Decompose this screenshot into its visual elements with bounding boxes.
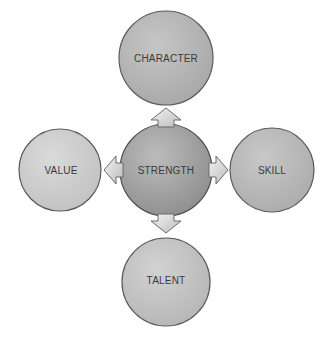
arrow-up-icon <box>151 108 181 127</box>
arrow-left-icon <box>104 156 123 184</box>
node-character: CHARACTER <box>119 11 213 105</box>
node-strength: STRENGTH <box>120 124 212 216</box>
node-skill: SKILL <box>230 128 314 212</box>
node-character-label: CHARACTER <box>134 53 198 64</box>
arrow-down-icon <box>151 214 181 233</box>
node-strength-label: STRENGTH <box>138 165 195 176</box>
node-value-label: VALUE <box>44 165 77 176</box>
node-value: VALUE <box>19 129 101 211</box>
node-talent-label: TALENT <box>147 275 186 286</box>
strength-diagram: CHARACTER VALUE SKILL TALENT STRENGTH <box>0 0 329 339</box>
node-talent: TALENT <box>122 238 210 326</box>
arrow-right-icon <box>209 156 228 184</box>
node-skill-label: SKILL <box>258 165 286 176</box>
